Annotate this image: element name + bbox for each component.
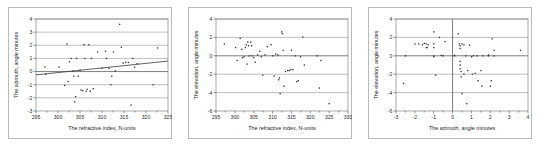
- y-tick-label: 2: [30, 42, 33, 48]
- data-point: [241, 49, 242, 50]
- data-point: [108, 68, 109, 69]
- data-point: [316, 55, 317, 56]
- x-axis-title: The azimuth, angle minutes: [429, 125, 496, 131]
- data-point: [292, 69, 293, 70]
- data-point: [91, 58, 92, 59]
- data-point: [97, 51, 98, 52]
- x-tick-label: 325: [325, 114, 334, 120]
- data-point: [237, 60, 238, 61]
- data-point: [441, 55, 442, 56]
- data-point: [273, 75, 274, 76]
- data-point: [289, 70, 290, 71]
- data-point: [282, 33, 283, 34]
- data-point: [82, 90, 83, 91]
- data-point: [466, 103, 467, 104]
- data-point: [137, 63, 138, 64]
- data-point: [115, 70, 116, 71]
- data-point: [424, 43, 425, 44]
- y-tick-label: 2: [210, 34, 213, 40]
- data-point: [246, 44, 247, 45]
- plot-area-border: [216, 19, 348, 111]
- data-point: [458, 33, 459, 34]
- data-point: [249, 55, 250, 56]
- x-tick-label: 325: [164, 114, 172, 120]
- data-point: [76, 58, 77, 59]
- data-point: [482, 55, 483, 56]
- data-point: [463, 74, 464, 75]
- data-point: [248, 45, 249, 46]
- data-point: [291, 50, 292, 51]
- x-tick-label: 305: [76, 114, 85, 120]
- y-tick-label: -2: [388, 71, 393, 77]
- data-points-group: [36, 24, 168, 106]
- data-point: [304, 64, 305, 65]
- data-point: [69, 61, 70, 62]
- x-tick-label: 300: [231, 114, 240, 120]
- chart-panel-2: 295300305310315320325330-6-4-2024The ref…: [180, 0, 360, 154]
- x-tick-label: -1: [431, 114, 436, 120]
- data-point: [128, 62, 129, 63]
- data-point: [403, 83, 404, 84]
- data-point: [463, 44, 464, 45]
- ticks-group: [34, 19, 168, 113]
- data-point: [111, 76, 112, 77]
- data-point: [319, 87, 320, 88]
- data-point: [66, 43, 67, 44]
- data-point: [300, 56, 301, 57]
- data-point: [460, 68, 461, 69]
- x-tick-label: 330: [344, 114, 352, 120]
- data-point: [110, 84, 111, 85]
- data-point: [460, 64, 461, 65]
- y-tick-label: -6: [388, 108, 393, 114]
- data-point: [253, 57, 254, 58]
- data-point: [267, 46, 268, 47]
- data-point: [252, 55, 253, 56]
- tick-labels-group: 295300305310315320325330-6-4-2024: [208, 16, 352, 121]
- y-tick-label: -2: [208, 71, 213, 77]
- data-point: [433, 43, 434, 44]
- data-point: [493, 55, 494, 56]
- data-point: [418, 43, 419, 44]
- data-point: [259, 51, 260, 52]
- data-point: [488, 55, 489, 56]
- y-tick-label: -6: [208, 108, 213, 114]
- data-point: [45, 74, 46, 75]
- data-point: [152, 84, 153, 85]
- data-point: [460, 71, 461, 72]
- gridlines-group: [396, 19, 528, 111]
- data-point: [73, 76, 74, 77]
- x-tick-label: 305: [249, 114, 258, 120]
- data-point: [465, 55, 466, 56]
- data-point: [414, 43, 415, 44]
- x-tick-label: 310: [98, 114, 107, 120]
- x-tick-label: 320: [142, 114, 151, 120]
- data-point: [58, 66, 59, 67]
- plot-area-border: [36, 19, 168, 111]
- data-point: [157, 47, 158, 48]
- gridlines-group: [216, 19, 348, 111]
- y-tick-label: 4: [210, 16, 213, 22]
- figure-row: 295300305310315320325-3-2-101234The refr…: [0, 0, 540, 154]
- data-point: [86, 91, 87, 92]
- data-point: [278, 79, 279, 80]
- data-point: [75, 96, 76, 97]
- x-tick-label: 0: [451, 114, 454, 120]
- data-point: [491, 80, 492, 81]
- y-axis-title: The elevation, angle minutes: [373, 30, 379, 99]
- data-point: [257, 54, 258, 55]
- data-point: [79, 70, 80, 71]
- data-point: [130, 104, 131, 105]
- data-point: [134, 66, 135, 67]
- data-point: [285, 71, 286, 72]
- data-point: [320, 60, 321, 61]
- data-point: [433, 31, 434, 32]
- data-point: [439, 37, 440, 38]
- x-tick-label: 295: [32, 114, 41, 120]
- data-point: [473, 55, 474, 56]
- x-tick-label: 315: [120, 114, 129, 120]
- data-point: [422, 44, 423, 45]
- data-point: [224, 43, 225, 44]
- data-point: [101, 68, 102, 69]
- data-point: [251, 45, 252, 46]
- y-tick-label: -1: [28, 82, 33, 88]
